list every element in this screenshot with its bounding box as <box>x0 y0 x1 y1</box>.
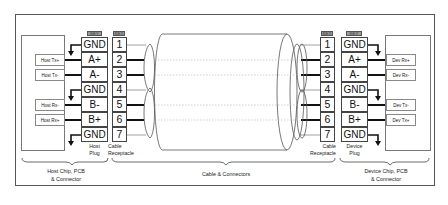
left-receptacle-pin: 2 <box>112 52 127 67</box>
cable-section-caption: Cable & Connectors <box>176 171 276 179</box>
host-plug-pin: GND <box>81 127 108 142</box>
left-ground-wires <box>126 45 146 135</box>
device-signal-tx-minus: Dev Tx- <box>386 99 416 111</box>
caption-line: Receptacle <box>300 150 336 157</box>
device-plug-caption: Device Plug <box>341 143 368 157</box>
right-receptacle-pin: 5 <box>320 97 335 112</box>
host-signal-rx-plus: Host Rx+ <box>35 114 65 126</box>
left-receptacle-key: KEY <box>113 31 125 36</box>
section-braces <box>22 158 429 165</box>
host-plug: GND A+ A- GND B- B+ GND <box>81 37 108 142</box>
right-receptacle-pin: 4 <box>320 82 335 97</box>
left-receptacle-pin: 4 <box>112 82 127 97</box>
device-plug-pin: GND <box>341 82 368 97</box>
caption-line: & Connector <box>22 176 110 184</box>
host-ground-arrowheads <box>68 51 74 146</box>
right-receptacle-pin: 2 <box>320 52 335 67</box>
left-receptacle-pin: 1 <box>112 37 127 52</box>
caption-line: Device Chip, PCB <box>340 168 432 176</box>
device-plug-pin: GND <box>341 127 368 142</box>
left-receptacle-pin: 3 <box>112 67 127 82</box>
host-section-caption: Host Chip, PCB & Connector <box>22 168 110 183</box>
host-plug-caption: Host Plug <box>81 143 108 157</box>
host-plug-key: KEY <box>87 31 102 36</box>
caption-line: Receptacle <box>108 150 144 157</box>
caption-line: Host <box>81 143 108 150</box>
right-receptacle-caption: Cable Receptacle <box>300 143 336 157</box>
cable-body <box>144 34 307 150</box>
left-receptacle-caption: Cable Receptacle <box>108 143 144 157</box>
right-receptacle-pin: 7 <box>320 127 335 142</box>
host-signal-rx-minus: Host Rx- <box>35 99 65 111</box>
left-receptacle-pin: 5 <box>112 97 127 112</box>
caption-line: Plug <box>81 150 108 157</box>
left-cable-receptacle: 1 2 3 4 5 6 7 <box>112 37 127 142</box>
device-plug-key: KEY <box>346 31 362 36</box>
right-receptacle-pin: 1 <box>320 37 335 52</box>
right-receptacle-pin: 6 <box>320 112 335 127</box>
device-plug-pin: B+ <box>341 112 368 127</box>
device-plug-pin: A- <box>341 67 368 82</box>
device-plug-pin: B- <box>341 97 368 112</box>
device-signal-tx-plus: Dev Tx+ <box>386 114 416 126</box>
device-ground-arrowheads <box>375 51 381 146</box>
right-cable-receptacle: 1 2 3 4 5 6 7 <box>320 37 335 142</box>
host-plug-pin: B+ <box>81 112 108 127</box>
device-chip-box <box>385 35 431 151</box>
caption-line: Cable <box>108 143 144 150</box>
host-signal-tx-minus: Host Tx- <box>35 69 65 81</box>
cable-conductors <box>155 60 298 120</box>
host-plug-pin: GND <box>81 82 108 97</box>
right-receptacle-key: KEY <box>321 31 333 36</box>
caption-line: & Connector <box>340 176 432 184</box>
device-plug-pin: GND <box>341 37 368 52</box>
device-signal-rx-minus: Dev Rx- <box>386 69 416 81</box>
host-plug-pin: A+ <box>81 52 108 67</box>
left-receptacle-pin: 6 <box>112 112 127 127</box>
host-chip-box <box>21 35 65 151</box>
host-plug-pin: B- <box>81 97 108 112</box>
caption-line: Device <box>341 143 368 150</box>
device-section-caption: Device Chip, PCB & Connector <box>340 168 432 183</box>
device-plug-pin: A+ <box>341 52 368 67</box>
device-plug: GND A+ A- GND B- B+ GND <box>341 37 368 142</box>
caption-line: Plug <box>341 150 368 157</box>
caption-line: Host Chip, PCB <box>22 168 110 176</box>
host-signal-tx-plus: Host Tx+ <box>35 54 65 66</box>
caption-line: Cable <box>300 143 336 150</box>
host-plug-pin: A- <box>81 67 108 82</box>
right-receptacle-pin: 3 <box>320 67 335 82</box>
device-signal-rx-plus: Dev Rx+ <box>386 54 416 66</box>
left-receptacle-pin: 7 <box>112 127 127 142</box>
host-plug-pin: GND <box>81 37 108 52</box>
